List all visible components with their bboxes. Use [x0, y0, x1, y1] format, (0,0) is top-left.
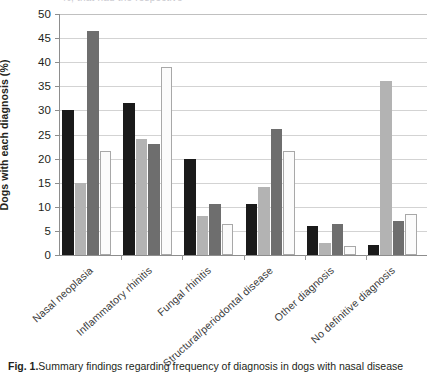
caption-text: Summary findings regarding frequency of …	[38, 360, 403, 372]
plot-area: 05101520253035404550	[59, 14, 427, 256]
y-axis-tick	[55, 14, 60, 15]
bar	[246, 204, 258, 255]
bar-group	[123, 14, 172, 255]
clipped-top-text-label: %, that had the respective	[62, 0, 183, 3]
bar	[87, 31, 99, 255]
bar	[380, 81, 392, 255]
y-axis-tick-label: 10	[38, 201, 51, 213]
bar	[209, 204, 221, 255]
y-axis-tick	[55, 110, 60, 111]
bar	[136, 139, 148, 255]
bar	[319, 243, 331, 255]
y-axis-tick	[55, 207, 60, 208]
y-axis-tick-label: 45	[38, 32, 51, 44]
bar	[75, 183, 87, 255]
y-axis-tick	[55, 183, 60, 184]
bar	[344, 246, 356, 255]
x-axis-separator	[305, 255, 306, 260]
bar	[258, 187, 270, 255]
y-axis-tick-label: 30	[38, 104, 51, 116]
bar	[283, 151, 295, 255]
bar	[368, 245, 380, 255]
figure-label: Fig. 1.	[8, 360, 38, 372]
x-axis-category-label: Fungal rhinitis	[155, 264, 213, 318]
bar	[405, 214, 417, 255]
y-axis-tick-label: 35	[38, 80, 51, 92]
bar	[307, 226, 319, 255]
x-axis-category-label: Nasal neoplasia	[30, 264, 95, 324]
y-axis-tick-label: 20	[38, 153, 51, 165]
x-axis-category-label: Inflammatory rhinitis	[74, 264, 154, 338]
bar	[148, 144, 160, 255]
bar	[332, 224, 344, 255]
bar-group	[307, 14, 356, 255]
x-axis-separator	[121, 255, 122, 260]
bar	[100, 151, 112, 255]
x-axis-separator	[244, 255, 245, 260]
y-axis-tick-label: 25	[38, 129, 51, 141]
y-axis-tick-label: 5	[45, 225, 52, 237]
bar	[271, 129, 283, 255]
x-axis-separator	[366, 255, 367, 260]
bar	[197, 216, 209, 255]
y-axis-title: Dogs with each diagnosis (%)	[0, 60, 10, 211]
bar	[393, 221, 405, 255]
x-axis-category-label: Other diagnosis	[271, 264, 335, 324]
bar	[123, 103, 135, 255]
y-axis-tick	[55, 62, 60, 63]
bar	[222, 224, 234, 255]
bar	[184, 159, 196, 255]
bar-group	[184, 14, 233, 255]
figure-caption: Fig. 1.Summary findings regarding freque…	[8, 360, 436, 373]
y-axis-tick	[55, 231, 60, 232]
y-axis-tick-label: 40	[38, 56, 51, 68]
figure-page: %, that had the respective Dogs with eac…	[0, 0, 442, 378]
y-axis-tick	[55, 159, 60, 160]
y-axis-tick	[55, 255, 60, 256]
y-axis-tick	[55, 38, 60, 39]
x-axis-category-label: Structural/periodontal disease	[160, 264, 275, 369]
bar-group	[368, 14, 417, 255]
clipped-top-text: %, that had the respective	[0, 0, 442, 11]
y-axis-tick-label: 15	[38, 177, 51, 189]
y-axis-tick	[55, 86, 60, 87]
x-axis-category-label: No definitive diagnosis	[308, 264, 397, 346]
bar	[62, 110, 74, 255]
bar-group	[62, 14, 111, 255]
bar-group	[246, 14, 295, 255]
y-axis-tick	[55, 135, 60, 136]
bar	[161, 67, 173, 255]
y-axis-tick-label: 0	[45, 249, 52, 261]
y-axis-tick-label: 50	[38, 8, 51, 20]
x-axis-separator	[182, 255, 183, 260]
